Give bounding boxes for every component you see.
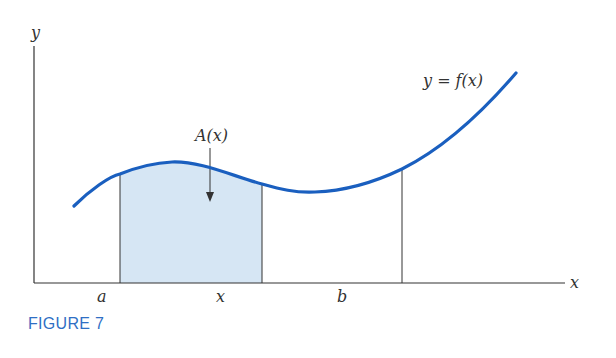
x-axis-label: x — [570, 273, 579, 292]
tick-label-a: a — [97, 287, 107, 306]
shaded-area-A — [120, 162, 262, 283]
figure-diagram: y x y = f(x) A(x) a x b — [0, 0, 616, 358]
curve-label: y = f(x) — [422, 71, 483, 90]
area-label: A(x) — [193, 126, 228, 145]
tick-label-b: b — [337, 287, 347, 306]
y-axis-label: y — [30, 23, 41, 42]
tick-label-x: x — [216, 287, 225, 306]
figure-caption: FIGURE 7 — [28, 315, 104, 333]
